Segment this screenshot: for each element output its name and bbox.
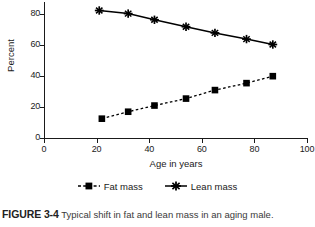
- legend-item-lean-mass[interactable]: Lean mass: [165, 181, 237, 192]
- figure-container: 020406080100 020406080 Percent Age in ye…: [0, 0, 315, 227]
- x-tick: [202, 139, 203, 143]
- legend-item-fat-mass[interactable]: Fat mass: [78, 181, 143, 192]
- y-tick-label: 20: [22, 101, 40, 111]
- data-point-marker: [124, 9, 133, 17]
- series-lean-mass: [95, 6, 277, 48]
- star-solid-icon: [165, 181, 187, 191]
- x-tick-label: 60: [187, 144, 217, 154]
- y-tick: [40, 14, 44, 15]
- series-fat-mass: [99, 73, 277, 122]
- y-axis-title: Percent: [5, 21, 16, 91]
- x-tick-label: 80: [239, 144, 269, 154]
- data-point-marker: [182, 23, 191, 31]
- data-point-marker: [212, 87, 219, 94]
- data-series-layer: [0, 0, 315, 200]
- data-point-marker: [95, 6, 104, 14]
- x-tick: [44, 139, 45, 143]
- x-tick: [307, 139, 308, 143]
- data-point-marker: [151, 102, 158, 109]
- x-axis-title: Age in years: [44, 158, 308, 169]
- y-tick: [40, 107, 44, 108]
- x-axis-line: [44, 138, 308, 139]
- y-tick: [40, 138, 44, 139]
- figure-number: FIGURE 3-4: [2, 208, 59, 220]
- data-point-marker: [243, 80, 250, 87]
- chart-plot-area: 020406080100 020406080 Percent Age in ye…: [0, 0, 315, 200]
- data-point-marker: [125, 108, 132, 115]
- y-axis-line: [44, 2, 45, 139]
- figure-caption: FIGURE 3-4 Typical shift in fat and lean…: [2, 208, 313, 221]
- y-axis-tick-labels: 020406080: [18, 0, 40, 160]
- y-tick: [40, 76, 44, 77]
- data-point-marker: [99, 115, 106, 122]
- data-point-marker: [150, 16, 159, 24]
- y-tick-label: 0: [22, 132, 40, 142]
- figure-caption-text: Typical shift in fat and lean mass in an…: [61, 209, 273, 220]
- square-dashed-icon: [78, 181, 100, 191]
- legend-label-lean-mass: Lean mass: [191, 181, 237, 192]
- data-point-marker: [268, 40, 277, 48]
- data-point-marker: [242, 35, 251, 43]
- data-point-marker: [270, 73, 277, 80]
- chart-legend: Fat mass Lean mass: [0, 178, 315, 194]
- legend-label-fat-mass: Fat mass: [104, 181, 143, 192]
- x-tick-label: 100: [292, 144, 315, 154]
- y-tick: [40, 45, 44, 46]
- x-tick: [97, 139, 98, 143]
- x-tick: [254, 139, 255, 143]
- data-point-marker: [211, 29, 220, 37]
- x-tick-label: 20: [82, 144, 112, 154]
- x-tick-label: 40: [134, 144, 164, 154]
- x-tick: [149, 139, 150, 143]
- y-tick-label: 60: [22, 39, 40, 49]
- y-tick-label: 40: [22, 70, 40, 80]
- data-point-marker: [183, 95, 190, 102]
- y-tick-label: 80: [22, 8, 40, 18]
